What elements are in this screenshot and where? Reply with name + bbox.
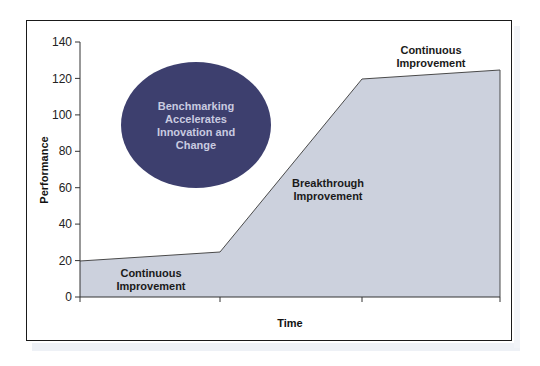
svg-text:Benchmarking: Benchmarking [158,100,234,112]
svg-text:Breakthrough: Breakthrough [292,177,364,189]
svg-text:Continuous: Continuous [400,44,461,56]
y-tick-140: 140 [52,35,72,49]
y-tick-120: 120 [52,72,72,86]
svg-text:Improvement: Improvement [293,190,362,202]
x-axis-title: Time [277,317,302,329]
svg-text:Change: Change [176,139,216,151]
y-tick-labels: 0 20 40 60 80 100 120 140 [52,35,72,304]
y-tick-0: 0 [65,290,72,304]
svg-text:Innovation and: Innovation and [157,126,235,138]
svg-text:Improvement: Improvement [396,57,465,69]
y-tick-80: 80 [59,144,73,158]
y-tick-60: 60 [59,181,73,195]
svg-text:Continuous: Continuous [120,267,181,279]
annotation-middle: Breakthrough Improvement [292,177,364,202]
annotation-left: Continuous Improvement [116,267,185,292]
y-axis-title: Performance [38,136,50,203]
y-tick-100: 100 [52,108,72,122]
x-ticks [80,297,500,302]
annotation-right: Continuous Improvement [396,44,465,69]
svg-text:Improvement: Improvement [116,280,185,292]
y-ticks [75,42,80,297]
y-tick-20: 20 [59,254,73,268]
benchmarking-ellipse [121,62,271,188]
chart-svg: 0 20 40 60 80 100 120 140 Time Performan… [0,0,540,366]
y-tick-40: 40 [59,217,73,231]
svg-text:Accelerates: Accelerates [165,113,227,125]
